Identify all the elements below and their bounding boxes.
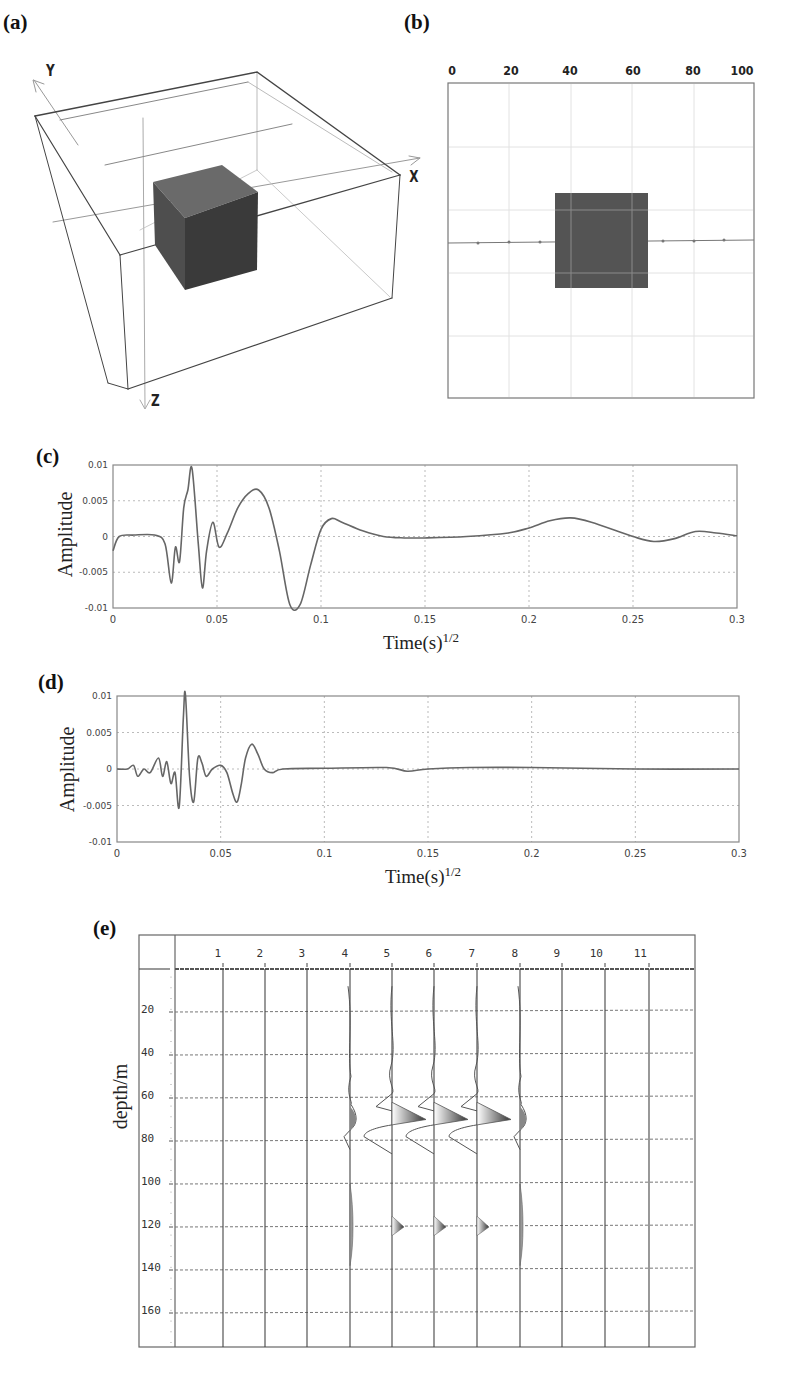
- trace-number-label: 1: [214, 947, 221, 960]
- trace-number-label: 10: [590, 947, 603, 960]
- depth-tick-label: 20: [141, 1003, 154, 1016]
- depth-tick-label: 60: [141, 1089, 154, 1102]
- wavelet-edge: [344, 986, 356, 1265]
- depth-tick-label: 120: [141, 1218, 161, 1231]
- depth-tick-label: 140: [141, 1261, 161, 1274]
- trace-number-label: 3: [298, 947, 305, 960]
- depth-tick-label: 100: [141, 1175, 161, 1188]
- trace-number-label: 9: [553, 947, 560, 960]
- trace-number-label: 6: [425, 947, 432, 960]
- trace-number-label: 4: [341, 947, 348, 960]
- depth-tick-label: 80: [141, 1132, 154, 1145]
- trace-number-label: 11: [634, 947, 647, 960]
- trace-number-label: 7: [468, 947, 475, 960]
- wavelet-edge: [514, 986, 526, 1265]
- wavelet: [449, 986, 511, 1235]
- panel-e-ylabel: depth/m: [109, 1047, 132, 1147]
- wavelet: [364, 986, 426, 1235]
- depth-tick-label: 160: [141, 1304, 161, 1317]
- trace-number-label: 2: [256, 947, 263, 960]
- trace-number-label: 5: [383, 947, 390, 960]
- depth-tick-label: 40: [141, 1046, 154, 1059]
- wavelet: [406, 986, 468, 1235]
- trace-number-label: 8: [511, 947, 518, 960]
- panel-e-wiggle-plot: [0, 0, 785, 1381]
